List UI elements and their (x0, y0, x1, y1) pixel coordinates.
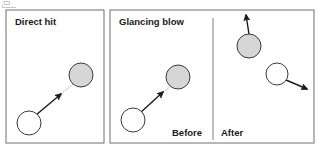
before-cue-ball-white (121, 108, 145, 132)
collision-diagram: Direct hit Glancing blow Before After (0, 0, 321, 153)
panel-direct-hit: Direct hit (6, 10, 104, 143)
cue-ball-white (17, 111, 41, 135)
after-label: After (221, 127, 243, 138)
before-label: Before (172, 127, 202, 138)
panel-glancing-blow: Glancing blow Before After (110, 10, 314, 143)
after-cue-ball-white (266, 63, 288, 85)
panel-title-glancing-blow: Glancing blow (119, 16, 185, 27)
before-target-ball-gray (166, 65, 190, 89)
after-target-ball-gray (237, 34, 261, 58)
panel-title-direct-hit: Direct hit (15, 16, 57, 27)
target-ball-gray (69, 63, 93, 87)
